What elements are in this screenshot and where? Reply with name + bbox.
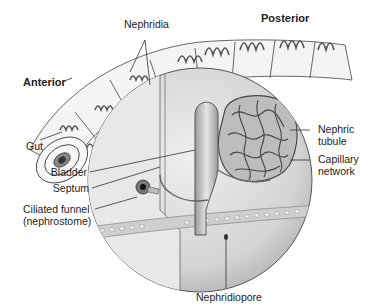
diagram-artwork [0, 0, 371, 308]
label-anterior: Anterior [23, 76, 66, 88]
label-gut: Gut [26, 140, 43, 152]
label-nephric-tubule: Nephric tubule [318, 123, 354, 147]
label-bladder: Bladder [51, 166, 87, 178]
nephridia-diagram: Nephridia Posterior Anterior Gut Nephric… [0, 0, 371, 308]
label-nephridia: Nephridia [124, 18, 169, 30]
label-septum: Septum [53, 182, 89, 194]
label-ciliated-funnel: Ciliated funnel (nephrostome) [23, 203, 91, 227]
label-capillary-network: Capillary network [318, 153, 359, 177]
label-nephridiopore: Nephridiopore [196, 291, 262, 303]
label-posterior: Posterior [261, 12, 309, 24]
nephridiopore-mark [224, 234, 228, 240]
capillary-network [218, 96, 297, 182]
